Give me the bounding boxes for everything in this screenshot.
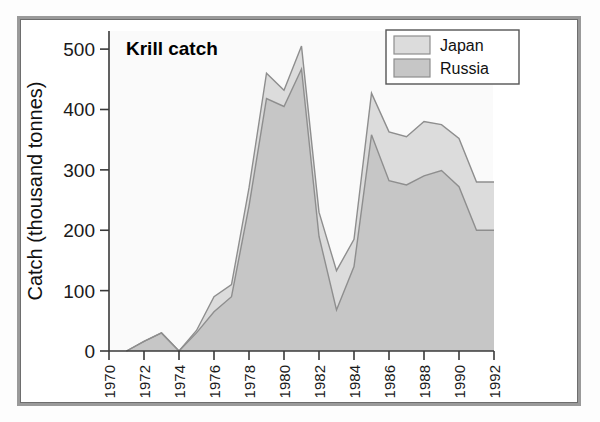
legend-label-japan: Japan [440, 37, 484, 54]
x-tick-label: 1988 [416, 365, 433, 398]
chart-title: Krill catch [126, 38, 218, 59]
x-tick-label: 1972 [136, 365, 153, 398]
legend-swatch-russia [394, 59, 430, 77]
x-tick-label: 1982 [311, 365, 328, 398]
x-tick-label: 1990 [451, 365, 468, 398]
x-tick-label: 1992 [486, 365, 503, 398]
x-tick-label: 1970 [101, 365, 118, 398]
x-tick-label: 1978 [241, 365, 258, 398]
y-axis-title: Catch (thousand tonnes) [24, 81, 46, 300]
y-tick-label: 0 [84, 341, 95, 362]
x-tick-label: 1976 [206, 365, 223, 398]
y-tick-label: 100 [63, 281, 95, 302]
y-tick-label: 300 [63, 160, 95, 181]
x-tick-label: 1974 [171, 365, 188, 398]
figure-container: 0100200300400500 19701972197419761978198… [0, 0, 600, 422]
x-tick-label: 1986 [381, 365, 398, 398]
x-tick-label: 1980 [276, 365, 293, 398]
y-axis-ticks: 0100200300400500 [63, 39, 109, 362]
legend-label-russia: Russia [440, 60, 489, 77]
x-axis-ticks: 1970197219741976197819801982198419861988… [101, 351, 503, 398]
legend: Japan Russia [386, 30, 519, 84]
y-tick-label: 200 [63, 220, 95, 241]
x-tick-label: 1984 [346, 365, 363, 398]
y-tick-label: 400 [63, 99, 95, 120]
chart-canvas: 0100200300400500 19701972197419761978198… [0, 0, 600, 422]
y-tick-label: 500 [63, 39, 95, 60]
legend-swatch-japan [394, 36, 430, 54]
